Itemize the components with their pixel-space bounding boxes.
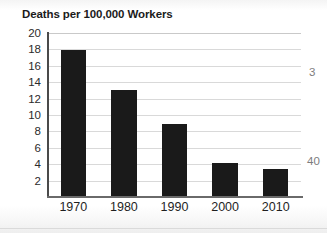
y-tick-label-12: 12 (28, 93, 41, 105)
bar-1970 (61, 50, 86, 197)
y-tick-label-2: 2 (35, 175, 41, 187)
x-tick-label-2010: 2010 (262, 200, 290, 214)
y-axis-line (47, 32, 49, 198)
margin-text-fragment-bottom: 40 (307, 155, 320, 167)
y-tick-label-4: 4 (35, 158, 41, 170)
plot-area (48, 33, 301, 197)
y-tick-label-18: 18 (28, 43, 41, 55)
bar-1980 (111, 90, 136, 197)
y-tick-label-20: 20 (28, 27, 41, 39)
bar-2010 (263, 169, 288, 197)
y-tick-label-14: 14 (28, 76, 41, 88)
bar-series (48, 33, 301, 197)
y-axis-tick-labels: 2018161412108642 (0, 33, 44, 197)
bar-1990 (162, 124, 187, 197)
y-tick-label-8: 8 (35, 125, 41, 137)
bar-chart-figure: Deaths per 100,000 Workers 2018161412108… (0, 0, 327, 233)
y-tick-label-10: 10 (28, 109, 41, 121)
x-axis-tick-labels: 19701980199020002010 (48, 200, 301, 222)
x-tick-label-1970: 1970 (59, 200, 87, 214)
x-tick-label-1990: 1990 (161, 200, 189, 214)
y-tick-label-6: 6 (35, 142, 41, 154)
margin-text-fragment-top: 3 (309, 66, 315, 78)
bar-2000 (212, 163, 237, 197)
x-tick-label-2000: 2000 (211, 200, 239, 214)
x-tick-label-1980: 1980 (110, 200, 138, 214)
x-axis-line (47, 196, 303, 198)
y-tick-label-16: 16 (28, 60, 41, 72)
page-divider-rule (0, 228, 327, 229)
chart-title: Deaths per 100,000 Workers (22, 8, 173, 20)
